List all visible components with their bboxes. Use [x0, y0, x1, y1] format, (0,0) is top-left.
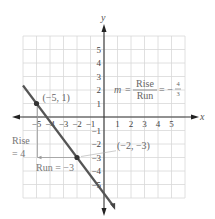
- run-label: Run = −3: [36, 162, 74, 173]
- y-tick-label: −2: [91, 139, 101, 149]
- x-tick-label: −2: [72, 119, 82, 129]
- x-tick-label: 1: [115, 119, 120, 129]
- x-tick-label: 3: [142, 119, 147, 129]
- point-label: (−2, −3): [117, 140, 150, 152]
- slope-numerator: Rise: [136, 78, 154, 89]
- y-axis-arrow-down-icon: [102, 208, 107, 216]
- x-axis-arrow-left-icon: [12, 115, 20, 120]
- y-tick-label: 1: [97, 99, 102, 109]
- run-arrow-icon: [38, 156, 42, 160]
- slope-value-den: 3: [176, 90, 179, 97]
- x-tick-label: 2: [129, 119, 134, 129]
- x-tick-label: 4: [156, 119, 161, 129]
- rise-label: Rise: [12, 135, 30, 146]
- y-tick-label: 5: [97, 45, 102, 55]
- slope-equals: = −: [159, 84, 173, 95]
- line-arrow-icon: [110, 203, 115, 210]
- y-tick-label: 4: [97, 58, 102, 68]
- y-tick-label: 2: [97, 85, 102, 95]
- slope-m: m: [114, 84, 121, 95]
- y-axis-arrow-up-icon: [102, 24, 107, 32]
- x-tick-label: −3: [59, 119, 69, 129]
- y-tick-label: −1: [91, 126, 101, 136]
- rise-value: = 4: [12, 148, 25, 159]
- slope-value-num: 4: [176, 80, 180, 87]
- coordinate-plane: −5−4−3−2−11234554321−1−2−3−4−5 (−5, 1)(−…: [0, 0, 215, 219]
- x-axis-label: x: [199, 111, 205, 122]
- slope-formula: m = Rise Run = − 4 3: [114, 78, 181, 101]
- x-tick-label: 5: [169, 119, 174, 129]
- point-label: (−5, 1): [43, 92, 70, 104]
- x-axis-arrow-right-icon: [191, 115, 199, 120]
- y-tick-label: 3: [97, 72, 102, 82]
- point-marker: [74, 155, 79, 160]
- y-axis-label: y: [100, 12, 106, 23]
- y-tick-label: −4: [91, 166, 101, 176]
- point-marker: [34, 101, 39, 106]
- slope-denominator: Run: [137, 90, 154, 101]
- x-tick-label: −5: [32, 119, 42, 129]
- svg-text:=: =: [125, 84, 131, 95]
